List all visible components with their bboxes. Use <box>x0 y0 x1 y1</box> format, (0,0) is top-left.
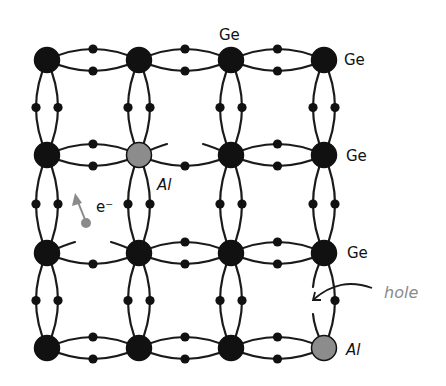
bond-electron <box>330 296 339 305</box>
bond-electron <box>273 259 282 268</box>
bond-electron <box>273 332 282 341</box>
bond-electron <box>123 199 132 208</box>
hole-arrow-curve <box>314 284 372 299</box>
free-electron <box>72 193 91 228</box>
bond-electron <box>273 44 282 53</box>
bond-electron <box>123 296 132 305</box>
ge-atom <box>127 48 152 73</box>
bond-electron <box>215 103 224 112</box>
germanium-lattice-diagram: Ge Ge Ge Ge Al Al e⁻ hole <box>0 0 446 386</box>
electron-arrow-head-icon <box>72 193 82 206</box>
bond-electron <box>88 139 97 148</box>
ge-atom <box>312 48 337 73</box>
bond-electron <box>145 103 154 112</box>
bond-electron <box>308 103 317 112</box>
label-ge-right-row0: Ge <box>344 51 365 69</box>
free-electron-dot <box>81 218 91 228</box>
ge-atom <box>219 143 244 168</box>
bond-electron <box>180 44 189 53</box>
bond-electron <box>273 237 282 246</box>
bond-electron <box>273 66 282 75</box>
al-atom <box>127 143 152 168</box>
label-ge-top: Ge <box>219 26 240 44</box>
bond-electron <box>215 199 224 208</box>
bond-electron <box>273 354 282 363</box>
bond-electron <box>180 161 189 170</box>
bond-electron <box>88 259 97 268</box>
bond-electron <box>53 296 62 305</box>
bond-electron <box>88 44 97 53</box>
ge-atom <box>219 241 244 266</box>
al-atom <box>312 336 337 361</box>
bond-electron <box>237 296 246 305</box>
label-electron: e⁻ <box>96 198 113 216</box>
covalent-bonds <box>36 49 335 359</box>
bond-electron <box>53 199 62 208</box>
ge-atom <box>127 241 152 266</box>
ge-atom <box>35 48 60 73</box>
ge-atom <box>312 143 337 168</box>
label-ge-right-row2: Ge <box>347 244 368 262</box>
bond-electron <box>180 332 189 341</box>
label-al-center: Al <box>156 176 172 194</box>
bond-electron <box>180 259 189 268</box>
bond-electron <box>180 237 189 246</box>
bond-electron <box>88 354 97 363</box>
ge-atom <box>35 336 60 361</box>
bond-electron <box>88 66 97 75</box>
bond-electron <box>145 199 154 208</box>
bond-electron <box>180 354 189 363</box>
bond-electron <box>308 199 317 208</box>
label-al-corner: Al <box>345 341 361 359</box>
ge-atom <box>219 336 244 361</box>
bond-electron <box>237 103 246 112</box>
hole-annotation <box>313 284 372 300</box>
bond-electron <box>31 103 40 112</box>
label-hole: hole <box>384 283 418 302</box>
bond-electron <box>88 161 97 170</box>
bond-electron <box>123 103 132 112</box>
bond-electron <box>330 103 339 112</box>
bond-electron <box>273 161 282 170</box>
bond-electron <box>273 139 282 148</box>
bond-electron <box>88 332 97 341</box>
ge-atom <box>35 143 60 168</box>
bond-electron <box>31 199 40 208</box>
ge-atom <box>35 241 60 266</box>
bond-electron <box>180 66 189 75</box>
bond-electron <box>145 296 154 305</box>
ge-atom <box>312 241 337 266</box>
bond-electron <box>31 296 40 305</box>
ge-atom <box>127 336 152 361</box>
ge-atom <box>219 48 244 73</box>
bond-electron <box>330 199 339 208</box>
bond-electron <box>215 296 224 305</box>
bond-electron <box>237 199 246 208</box>
bond-electron <box>53 103 62 112</box>
label-ge-right-row1: Ge <box>346 147 367 165</box>
